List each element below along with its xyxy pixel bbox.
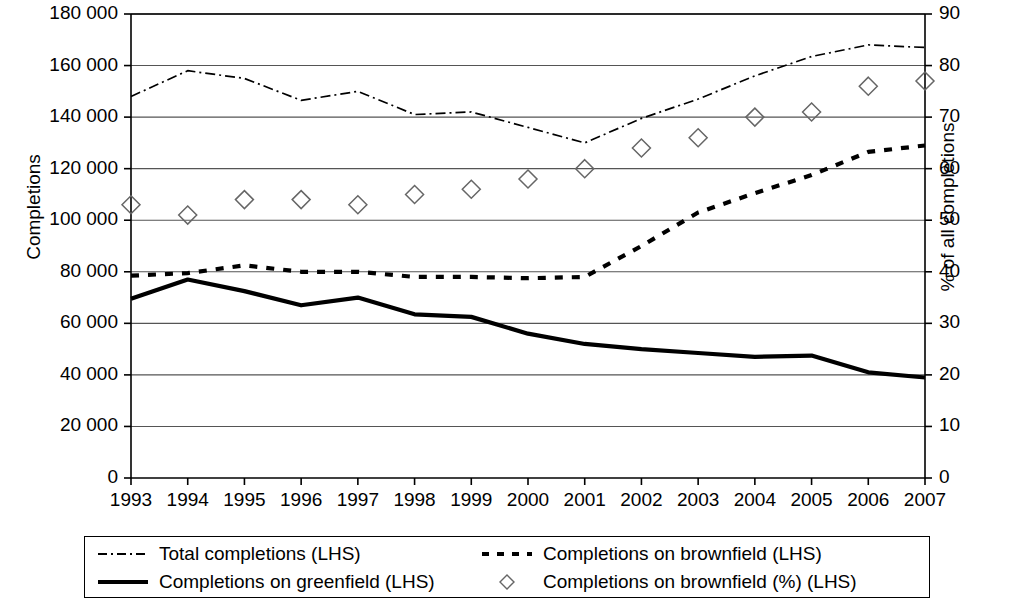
chart-root: Completions % of all completions 020 000… <box>0 0 1014 610</box>
data-series-line <box>131 145 925 278</box>
data-marker-diamond <box>406 185 424 203</box>
legend-item-total-completions[interactable]: Total completions (LHS) <box>97 543 361 565</box>
plot-area <box>0 0 1014 610</box>
data-marker-diamond <box>803 103 821 121</box>
data-marker-diamond <box>462 180 480 198</box>
legend-label: Completions on brownfield (LHS) <box>543 543 822 565</box>
data-marker-diamond <box>179 206 197 224</box>
data-marker-diamond <box>235 191 253 209</box>
diamond-marker-key <box>481 573 533 591</box>
dash-dot-line-key <box>97 545 149 563</box>
solid-line-key <box>97 573 149 591</box>
data-marker-diamond <box>292 191 310 209</box>
legend-item-brownfield-percent[interactable]: Completions on brownfield (%) (LHS) <box>481 571 857 593</box>
chart-legend: Total completions (LHS) Completions on g… <box>84 536 930 598</box>
data-series-line <box>131 45 925 143</box>
data-marker-diamond <box>689 129 707 147</box>
data-marker-diamond <box>519 170 537 188</box>
data-series-line <box>131 280 925 378</box>
data-marker-diamond <box>349 196 367 214</box>
data-marker-diamond <box>859 77 877 95</box>
legend-item-brownfield[interactable]: Completions on brownfield (LHS) <box>481 543 822 565</box>
data-marker-diamond <box>632 139 650 157</box>
dashed-line-key <box>481 545 533 563</box>
legend-label: Completions on brownfield (%) (LHS) <box>543 571 857 593</box>
legend-label: Total completions (LHS) <box>159 543 361 565</box>
legend-item-greenfield[interactable]: Completions on greenfield (LHS) <box>97 571 435 593</box>
legend-label: Completions on greenfield (LHS) <box>159 571 435 593</box>
